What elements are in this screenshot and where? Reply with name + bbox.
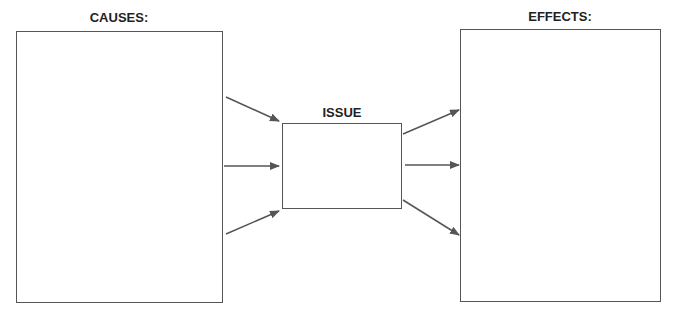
effect-arrow-top — [403, 110, 459, 134]
arrows-layer — [0, 0, 674, 312]
cause-arrow-top — [226, 97, 279, 121]
cause-arrow-bottom — [226, 211, 279, 234]
effect-arrow-bottom — [403, 200, 459, 235]
